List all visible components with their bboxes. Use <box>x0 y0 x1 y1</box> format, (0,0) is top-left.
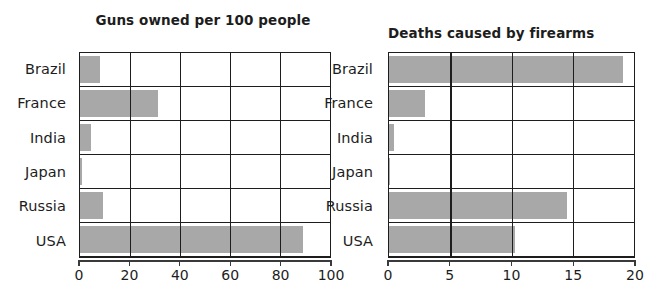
category-axis-labels-guns-owned: Brazil France India Japan Russia USA <box>0 52 73 258</box>
category-label-russia: Russia <box>288 189 380 223</box>
bar-russia <box>389 192 567 218</box>
bar-russia <box>80 192 103 218</box>
category-label-japan: Japan <box>0 155 73 189</box>
bar-japan <box>389 158 390 184</box>
category-label-france: France <box>288 86 380 120</box>
x-tick-15 <box>573 260 574 266</box>
bar-japan <box>80 158 82 184</box>
x-tick-label-60: 60 <box>221 267 239 283</box>
bar-row-russia <box>389 189 634 223</box>
chart-title-guns-owned: Guns owned per 100 people <box>78 12 328 29</box>
x-tick-20 <box>129 260 130 266</box>
x-tick-60 <box>230 260 231 266</box>
category-label-france: France <box>0 86 73 120</box>
x-tick-100 <box>330 260 331 266</box>
x-tick-label-40: 40 <box>171 267 189 283</box>
bar-row-japan <box>389 155 634 189</box>
category-label-brazil: Brazil <box>0 52 73 86</box>
category-axis-labels-firearm-deaths: Brazil France India Japan Russia USA <box>288 52 380 258</box>
plot-area-firearm-deaths <box>388 52 635 258</box>
x-axis-firearm-deaths: 05101520 <box>388 260 635 262</box>
two-panel-bar-chart-figure: Guns owned per 100 people Brazil France … <box>0 0 668 295</box>
x-tick-label-20: 20 <box>626 267 644 283</box>
category-label-russia: Russia <box>0 189 73 223</box>
x-tick-label-0: 0 <box>75 267 84 283</box>
category-label-brazil: Brazil <box>288 52 380 86</box>
chart-panel-firearm-deaths: Deaths caused by firearms (per 100,000 p… <box>340 0 668 295</box>
bar-row-usa <box>389 223 634 257</box>
bar-row-india <box>389 121 634 155</box>
bar-row-brazil <box>389 53 634 87</box>
category-label-usa: USA <box>0 224 73 258</box>
bar-usa <box>80 226 303 252</box>
x-tick-5 <box>449 260 450 266</box>
category-label-usa: USA <box>288 224 380 258</box>
category-label-japan: Japan <box>288 155 380 189</box>
x-tick-label-15: 15 <box>564 267 582 283</box>
chart-title-line-1: Deaths caused by firearms <box>388 25 638 42</box>
x-tick-label-20: 20 <box>120 267 138 283</box>
bar-india <box>80 124 91 150</box>
x-tick-0 <box>387 260 388 266</box>
x-tick-10 <box>511 260 512 266</box>
bar-usa <box>389 226 515 252</box>
x-tick-label-80: 80 <box>272 267 290 283</box>
bar-india <box>389 124 394 150</box>
bar-brazil <box>389 56 623 82</box>
category-label-india: India <box>288 121 380 155</box>
x-axis-guns-owned: 020406080100 <box>79 260 331 262</box>
x-tick-20 <box>634 260 635 266</box>
category-label-india: India <box>0 121 73 155</box>
bar-brazil <box>80 56 100 82</box>
x-tick-label-5: 5 <box>445 267 454 283</box>
bar-france <box>389 90 425 116</box>
x-tick-40 <box>179 260 180 266</box>
x-tick-80 <box>280 260 281 266</box>
bar-france <box>80 90 158 116</box>
x-tick-0 <box>78 260 79 266</box>
x-tick-label-0: 0 <box>384 267 393 283</box>
bar-row-france <box>389 87 634 121</box>
x-tick-label-10: 10 <box>503 267 521 283</box>
